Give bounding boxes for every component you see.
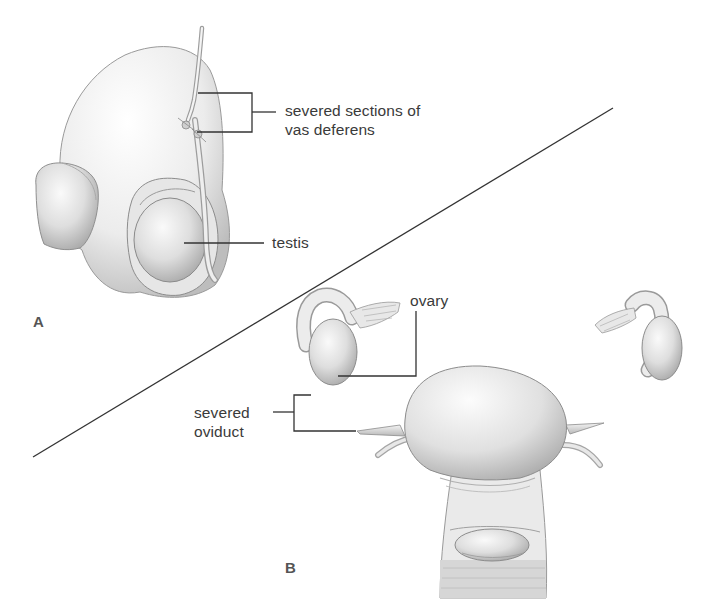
vasectomy-tubal-ligation-diagram: severed sections of vas deferens testis … bbox=[0, 0, 724, 610]
panel-letter-b: B bbox=[285, 559, 296, 576]
label-oviduct-line2: oviduct bbox=[194, 422, 244, 441]
label-ovary: ovary bbox=[410, 291, 448, 310]
panel-letter-a: A bbox=[33, 313, 44, 330]
label-testis: testis bbox=[272, 233, 309, 252]
label-oviduct-line1: severed bbox=[194, 403, 250, 422]
label-vas-deferens-line1: severed sections of bbox=[285, 101, 420, 120]
oviduct-bracket bbox=[273, 395, 356, 431]
anatomy-illustration bbox=[0, 0, 724, 610]
male-anatomy-drawing bbox=[36, 28, 230, 297]
female-anatomy-drawing bbox=[304, 295, 682, 598]
label-vas-deferens-line2: vas deferens bbox=[285, 120, 375, 139]
